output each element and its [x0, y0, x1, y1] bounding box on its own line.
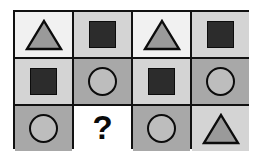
circle-icon	[147, 114, 176, 143]
matrix-cell-r3c3[interactable]	[133, 106, 190, 151]
square-icon	[30, 68, 57, 95]
circle-icon	[29, 114, 58, 143]
matrix-cell-r2c1[interactable]	[15, 59, 72, 104]
triangle-icon	[143, 19, 181, 51]
square-icon	[148, 68, 175, 95]
matrix-grid: ?	[13, 10, 249, 149]
matrix-cell-r2c3[interactable]	[133, 59, 190, 104]
matrix-cell-r2c2[interactable]	[74, 59, 131, 104]
circle-icon	[206, 67, 235, 96]
matrix-puzzle-root: ?	[0, 0, 260, 157]
matrix-cell-r3c4[interactable]	[192, 106, 249, 151]
matrix-cell-r1c3[interactable]	[133, 12, 190, 57]
question-mark-placeholder: ?	[92, 111, 112, 146]
matrix-cell-r1c2[interactable]	[74, 12, 131, 57]
matrix-cell-r1c1[interactable]	[15, 12, 72, 57]
triangle-icon	[202, 113, 240, 145]
matrix-cell-r3c1[interactable]	[15, 106, 72, 151]
square-icon	[89, 21, 116, 48]
matrix-cell-r1c4[interactable]	[192, 12, 249, 57]
square-icon	[207, 21, 234, 48]
matrix-cell-r2c4[interactable]	[192, 59, 249, 104]
circle-icon	[88, 67, 117, 96]
triangle-icon	[25, 19, 63, 51]
matrix-cell-r3c2-missing[interactable]: ?	[74, 106, 131, 151]
